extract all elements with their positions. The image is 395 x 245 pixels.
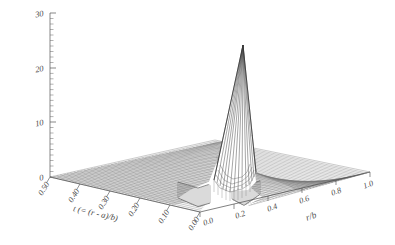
z-tick-label-30: 30 [33, 8, 45, 20]
z-tick-label-10: 10 [34, 117, 45, 128]
z-axis: 30 20 10 0 [33, 8, 56, 183]
spike-fill [214, 45, 256, 192]
y-tick-label-4: 0.10 [156, 208, 171, 225]
x-tick-label-5: 1.0 [362, 179, 375, 191]
x-tick-label-0: 0.0 [202, 216, 215, 228]
x-tick-label-4: 0.8 [330, 186, 343, 198]
surface-plot-figure: 30 20 10 0 [0, 0, 395, 245]
y-tick-label-5: 0.00 [186, 215, 201, 232]
y-tick-label-0: 0.50 [36, 180, 51, 197]
z-axis-minor-ticks [50, 19, 54, 172]
x-axis-title: r/b [304, 210, 318, 223]
z-tick-label-20: 20 [34, 63, 45, 74]
x-tick-label-2: 0.4 [266, 202, 279, 214]
y-tick-label-1: 0.40 [66, 187, 81, 204]
x-tick-label-3: 0.6 [298, 193, 312, 205]
x-tick-label-1: 0.2 [234, 209, 247, 221]
y-tick-label-3: 0.20 [126, 201, 141, 218]
plot-canvas: 30 20 10 0 [0, 0, 395, 245]
